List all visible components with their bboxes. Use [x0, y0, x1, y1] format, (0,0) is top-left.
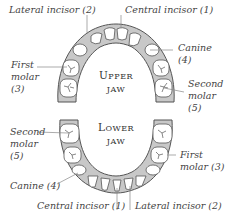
label-lower-first-molar-1: First	[180, 149, 203, 160]
label-upper-second-molar-3: (5)	[188, 102, 201, 113]
label-lower-second-molar-3: (5)	[10, 150, 23, 161]
label-upper-central-incisor: Central incisor (1)	[125, 4, 213, 15]
lower-jaw-title: LOWER JAW	[94, 121, 138, 148]
label-lower-canine: Canine (4)	[10, 180, 60, 191]
upper-jaw-title: UPPER JAW	[94, 69, 138, 96]
label-upper-canine-1: Canine	[178, 42, 212, 53]
label-upper-canine-2: (4)	[178, 54, 191, 65]
label-upper-lateral-incisor: Lateral incisor (2)	[9, 4, 96, 15]
label-upper-first-molar-2: molar	[11, 71, 39, 82]
label-upper-second-molar-1: Second	[188, 78, 223, 89]
label-upper-second-molar-2: molar	[188, 90, 216, 101]
label-upper-first-molar-3: (3)	[11, 83, 24, 94]
label-lower-first-molar-2: molar (3)	[180, 161, 224, 172]
label-upper-first-molar-1: First	[11, 59, 34, 70]
label-lower-lateral-incisor: Lateral incisor (2)	[135, 200, 222, 211]
label-lower-second-molar-1: Second	[10, 126, 45, 137]
label-lower-central-incisor: Central incisor (1)	[37, 200, 125, 211]
label-lower-second-molar-2: molar	[10, 138, 38, 149]
